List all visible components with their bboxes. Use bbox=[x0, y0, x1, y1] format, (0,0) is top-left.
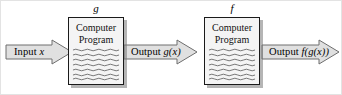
code-squiggle-lines bbox=[208, 47, 256, 81]
program-box-f-title-line2: Program bbox=[205, 34, 259, 46]
input-arrow-label-prefix: Input bbox=[14, 46, 39, 57]
output-arrow: Output f(g(x)) bbox=[261, 39, 340, 65]
program-box-g-title-line1: Computer bbox=[69, 22, 123, 34]
middle-arrow-label: Output g(x) bbox=[131, 39, 181, 65]
program-box-g-code-lines bbox=[72, 47, 120, 81]
input-arrow-label-variable: x bbox=[39, 46, 44, 57]
input-arrow-label: Input x bbox=[14, 39, 44, 65]
program-box-g-title-line2: Program bbox=[69, 34, 123, 46]
function-composition-diagram: Input x g Computer Program bbox=[0, 0, 342, 95]
program-box-g-title: Computer Program bbox=[69, 22, 123, 45]
output-arrow-label: Output f(g(x)) bbox=[269, 39, 329, 65]
middle-arrow-label-suffix: (x) bbox=[169, 46, 181, 57]
program-box-g: Computer Program bbox=[68, 17, 124, 85]
function-letter-g: g bbox=[68, 2, 124, 14]
middle-arrow: Output g(x) bbox=[123, 39, 198, 65]
program-box-f-title-line1: Computer bbox=[205, 22, 259, 34]
middle-arrow-label-prefix: Output bbox=[131, 46, 164, 57]
output-arrow-label-prefix: Output bbox=[269, 46, 302, 57]
program-box-f: Computer Program bbox=[204, 17, 260, 85]
code-squiggle-lines bbox=[72, 47, 120, 81]
program-box-f-code-lines bbox=[208, 47, 256, 81]
output-arrow-label-suffix: (g(x)) bbox=[305, 46, 330, 57]
function-letter-f: f bbox=[204, 2, 260, 14]
input-arrow: Input x bbox=[5, 39, 73, 65]
program-box-f-title: Computer Program bbox=[205, 22, 259, 45]
